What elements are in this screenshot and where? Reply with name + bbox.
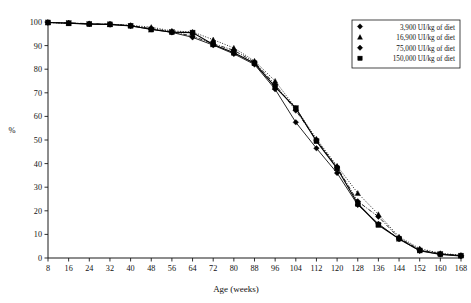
- y-axis-tick-label: 70: [34, 89, 42, 98]
- square-marker-icon: [149, 27, 154, 32]
- x-axis-tick-label: 24: [85, 264, 93, 273]
- square-marker-icon: [397, 236, 402, 241]
- square-marker-icon: [107, 22, 112, 27]
- x-axis-tick-label: 96: [271, 264, 279, 273]
- x-axis-tick-label: 8: [46, 264, 50, 273]
- y-axis-tick-label: 20: [34, 207, 42, 216]
- y-axis-title: %: [8, 125, 15, 135]
- x-axis-tick-label: 80: [230, 264, 238, 273]
- x-axis-tick-label: 56: [168, 264, 176, 273]
- x-axis-tick-label: 40: [127, 264, 135, 273]
- square-marker-icon: [314, 139, 319, 144]
- square-marker-icon: [376, 222, 381, 227]
- chart-legend: 3,900 UI/kg of diet16,900 UI/kg of diet7…: [352, 20, 460, 68]
- square-marker-icon: [438, 252, 443, 257]
- y-axis-tick-label: 0: [38, 254, 42, 263]
- y-axis-tick-label: 30: [34, 183, 42, 192]
- square-marker-icon: [358, 56, 362, 60]
- square-marker-icon: [459, 253, 464, 258]
- x-axis-tick-label: 88: [250, 264, 258, 273]
- square-marker-icon: [273, 84, 278, 89]
- square-marker-icon: [190, 30, 195, 35]
- y-axis-tick-label: 50: [34, 136, 42, 145]
- y-axis-tick-label: 100: [30, 18, 42, 27]
- x-axis-tick-label: 32: [106, 264, 114, 273]
- legend-item-label: 150,000 UI/kg of diet: [393, 55, 455, 63]
- x-axis-tick-label: 72: [209, 264, 217, 273]
- square-marker-icon: [293, 106, 298, 111]
- square-marker-icon: [128, 23, 133, 28]
- x-axis-tick-label: 120: [331, 264, 343, 273]
- x-axis-tick-label: 112: [310, 264, 322, 273]
- x-axis-tick-label: 160: [434, 264, 446, 273]
- legend-item-label: 75,000 UI/kg of diet: [396, 45, 455, 53]
- legend-item-label: 3,900 UI/kg of diet: [400, 24, 455, 32]
- y-axis-tick-label: 10: [34, 230, 42, 239]
- x-axis-tick-label: 144: [393, 264, 405, 273]
- square-marker-icon: [355, 201, 360, 206]
- square-marker-icon: [66, 21, 71, 26]
- x-axis-tick-label: 104: [290, 264, 302, 273]
- x-axis-tick-label: 48: [147, 264, 155, 273]
- line-chart: 0102030405060708090100 81624324048566472…: [0, 0, 471, 303]
- square-marker-icon: [169, 30, 174, 35]
- square-marker-icon: [231, 50, 236, 55]
- square-marker-icon: [335, 166, 340, 171]
- x-axis-title: Age (weeks): [213, 284, 259, 294]
- square-marker-icon: [211, 42, 216, 47]
- x-axis-tick-label: 128: [352, 264, 364, 273]
- x-axis-tick-label: 136: [372, 264, 384, 273]
- square-marker-icon: [417, 248, 422, 253]
- y-axis-tick-label: 40: [34, 160, 42, 169]
- y-axis-tick-label: 60: [34, 112, 42, 121]
- x-axis-tick-label: 152: [414, 264, 426, 273]
- y-axis-tick-label: 90: [34, 42, 42, 51]
- square-marker-icon: [252, 61, 257, 66]
- x-axis-tick-label: 168: [455, 264, 467, 273]
- x-axis-tick-label: 16: [65, 264, 73, 273]
- y-axis-tick-label: 80: [34, 65, 42, 74]
- x-axis-tick-label: 64: [188, 264, 196, 273]
- square-marker-icon: [87, 22, 92, 27]
- square-marker-icon: [46, 20, 51, 25]
- legend-item-label: 16,900 UI/kg of diet: [396, 34, 455, 42]
- chart-container: 0102030405060708090100 81624324048566472…: [0, 0, 471, 303]
